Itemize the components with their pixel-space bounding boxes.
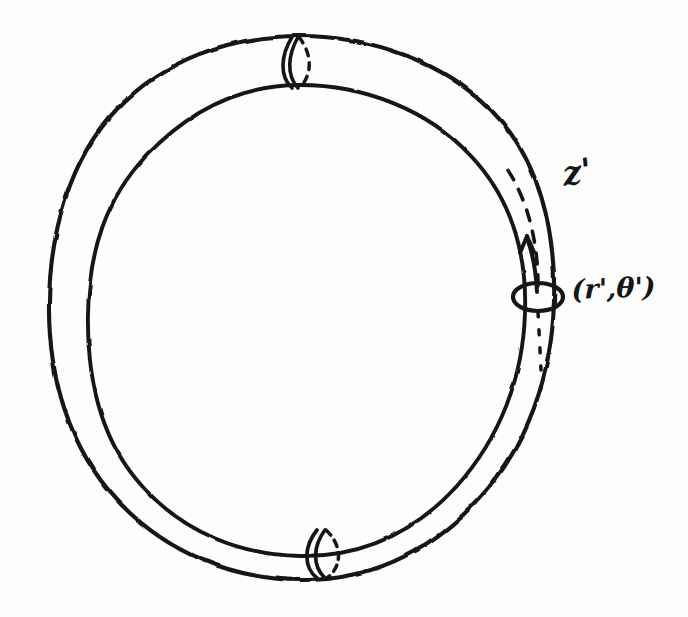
top-seam-hidden-arc xyxy=(299,37,309,88)
inner-ring-outline xyxy=(88,85,525,556)
tube-center-dashed-lower xyxy=(538,312,541,370)
cross-section-coordinate-label: (r',θ') xyxy=(572,273,656,303)
outer-ring-outline xyxy=(49,36,554,580)
torus-diagram xyxy=(0,0,688,617)
z-axis-label: z' xyxy=(561,152,593,190)
sketch-canvas: z' (r',θ') xyxy=(0,0,688,617)
top-seam xyxy=(283,37,309,88)
